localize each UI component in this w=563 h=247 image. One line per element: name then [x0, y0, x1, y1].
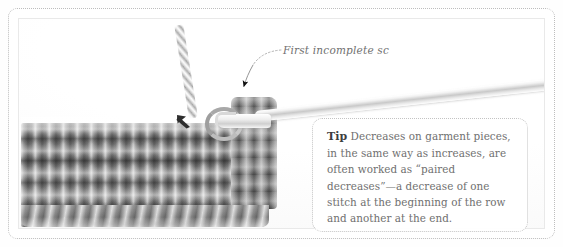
crochet-fabric-shadow [25, 222, 267, 229]
crochet-hook-throat [215, 112, 236, 125]
figure-root: First incomplete sc Tip Decreases on gar… [0, 0, 563, 247]
tip-label: Tip [327, 130, 347, 143]
tip-paragraph: Tip Decreases on garment pieces, in the … [327, 128, 515, 226]
tip-body-text: Decreases on garment pieces, in the same… [327, 130, 511, 224]
annotation-caption: First incomplete sc [283, 44, 389, 56]
tip-callout-box: Tip Decreases on garment pieces, in the … [312, 118, 528, 232]
